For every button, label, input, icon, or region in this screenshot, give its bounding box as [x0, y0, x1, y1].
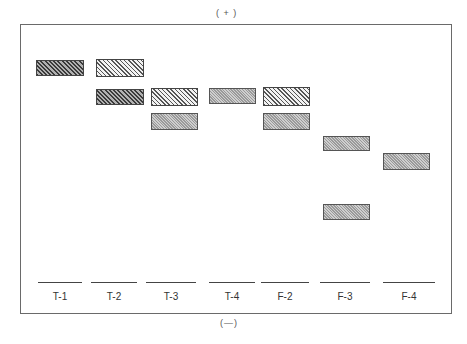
cathode-label: (—) [220, 318, 238, 328]
band-f-3-2 [323, 204, 370, 220]
origin-line-f-3 [320, 282, 370, 283]
lane-label-f-4: F-4 [379, 291, 439, 302]
origin-line-t-1 [38, 282, 82, 283]
band-t-3-2 [151, 113, 198, 130]
lane-label-t-1: T-1 [30, 291, 90, 302]
lane-label-t-2: T-2 [84, 291, 144, 302]
origin-line-t-3 [146, 282, 196, 283]
origin-line-f-2 [261, 282, 309, 283]
band-f-3-1 [323, 136, 370, 151]
band-t-1-1 [36, 60, 84, 76]
anode-label: ( + ) [216, 8, 237, 18]
origin-line-t-2 [91, 282, 137, 283]
lane-label-f-3: F-3 [315, 291, 375, 302]
band-t-3-1 [151, 88, 198, 106]
origin-line-f-4 [383, 282, 435, 283]
band-t-4-1 [209, 88, 256, 104]
origin-line-t-4 [209, 282, 255, 283]
band-t-2-1 [96, 59, 144, 77]
lane-label-t-4: T-4 [202, 291, 262, 302]
band-t-2-2 [96, 89, 144, 105]
lane-label-t-3: T-3 [141, 291, 201, 302]
band-f-2-2 [263, 113, 310, 130]
band-f-2-1 [263, 87, 310, 106]
band-f-4-1 [383, 153, 430, 170]
lane-label-f-2: F-2 [255, 291, 315, 302]
